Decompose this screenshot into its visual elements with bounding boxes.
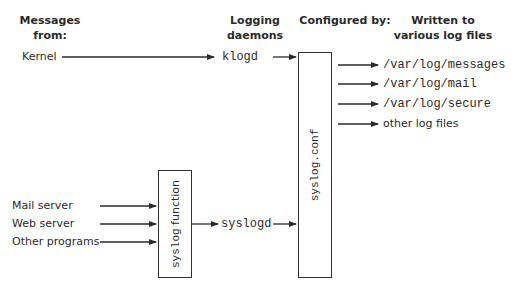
arrows-layer [0, 0, 511, 290]
